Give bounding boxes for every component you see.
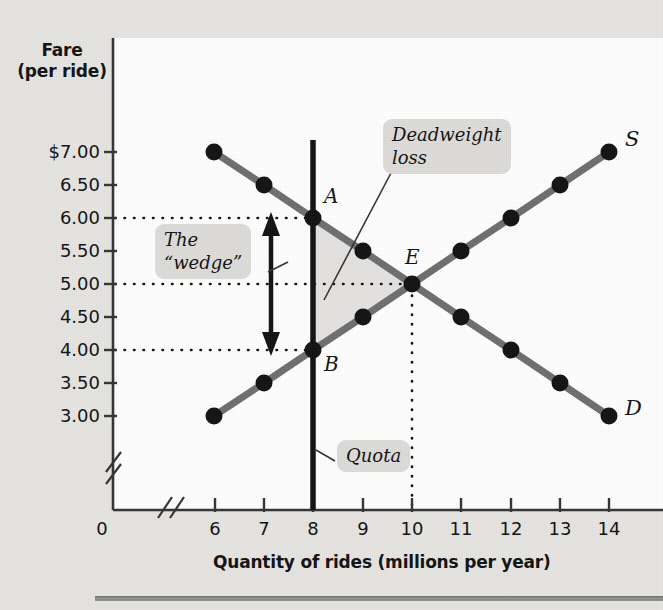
x-tick-label-12: 12 (491, 519, 531, 539)
x-tick-label-11: 11 (441, 519, 481, 539)
x-axis-title: Quantity of rides (millions per year) (213, 552, 551, 573)
y-tick-label-4-00: 4.00 (10, 340, 100, 360)
y-tick-label-6-50: 6.50 (10, 175, 100, 195)
origin-label: 0 (82, 519, 122, 539)
x-tick-label-7: 7 (244, 519, 284, 539)
callout-deadweight-loss: Deadweight loss (383, 119, 511, 174)
x-tick-label-14: 14 (589, 519, 629, 539)
callout-quota: Quota (337, 440, 410, 472)
x-tick-label-10: 10 (392, 519, 432, 539)
y-axis-title-line2: (per ride) (17, 61, 106, 81)
callout-wedge: The “wedge” (155, 224, 251, 279)
y-axis-title-line1: Fare (41, 40, 82, 60)
chart-figure: Fare(per ride) $7.00 6.50 6.00 5.50 5.00… (0, 0, 663, 610)
y-tick-label-5-50: 5.50 (10, 241, 100, 261)
point-label-e: E (405, 245, 420, 269)
y-tick-label-4-50: 4.50 (10, 307, 100, 327)
y-tick-label-7-00: $7.00 (10, 142, 100, 162)
point-label-a: A (324, 184, 338, 208)
x-tick-label-13: 13 (540, 519, 580, 539)
y-tick-label-5-00: 5.00 (10, 274, 100, 294)
x-tick-label-6: 6 (195, 519, 235, 539)
point-label-b: B (324, 352, 339, 376)
y-tick-label-3-00: 3.00 (10, 406, 100, 426)
demand-curve-label: D (625, 396, 642, 420)
y-tick-label-3-50: 3.50 (10, 373, 100, 393)
x-tick-label-9: 9 (343, 519, 383, 539)
x-tick-label-8: 8 (293, 519, 333, 539)
supply-curve-label: S (625, 127, 639, 151)
y-tick-label-6-00: 6.00 (10, 208, 100, 228)
y-axis-title: Fare(per ride) (14, 40, 110, 82)
bottom-rule (95, 596, 663, 601)
